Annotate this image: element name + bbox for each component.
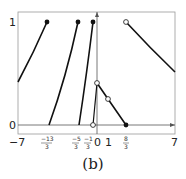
y-tick-label: 0 <box>9 119 16 132</box>
open-point-marker <box>95 81 100 86</box>
curve-branch-1 <box>18 22 47 82</box>
svg-text:3: 3 <box>45 143 49 150</box>
svg-text:3: 3 <box>74 143 78 150</box>
filled-point-marker <box>45 20 50 25</box>
svg-text:−5: −5 <box>72 135 81 142</box>
x-tick-label: 1 <box>105 136 112 149</box>
x-tick-label: 0 <box>94 136 101 149</box>
x-tick-frac-8-3: 8 3 <box>123 135 129 150</box>
open-point-marker <box>124 20 129 25</box>
curve-branch-3 <box>79 22 93 125</box>
svg-text:−13: −13 <box>41 135 54 142</box>
curve-branch-2 <box>49 22 78 125</box>
filled-point-marker <box>91 20 96 25</box>
svg-text:−1: −1 <box>84 135 93 142</box>
figure-caption: (b) <box>0 155 186 173</box>
filled-point-marker <box>76 20 81 25</box>
x-tick-label: −7 <box>9 136 25 149</box>
curve-branch-4 <box>93 83 97 125</box>
svg-text:3: 3 <box>124 143 128 150</box>
x-axis-arrow-icon <box>170 123 175 127</box>
svg-text:8: 8 <box>124 135 128 142</box>
x-tick-frac-13-3: −13 3 <box>41 135 54 150</box>
curve-branch-6 <box>126 22 175 72</box>
curve-branch-5 <box>97 83 126 125</box>
y-axis-arrow-icon <box>95 12 99 17</box>
plot-frame <box>18 12 175 134</box>
x-tick-frac-1-3: −1 3 <box>84 135 93 150</box>
x-tick-frac-5-3: −5 3 <box>72 135 81 150</box>
x-tick-label: 7 <box>171 136 178 149</box>
chart: 1 0 −7 −13 3 −5 3 −1 3 0 1 8 3 7 <box>0 0 186 179</box>
open-point-marker <box>91 123 96 128</box>
svg-text:3: 3 <box>86 143 90 150</box>
open-point-marker <box>106 97 111 102</box>
filled-point-marker <box>124 123 129 128</box>
y-tick-label: 1 <box>9 16 16 29</box>
